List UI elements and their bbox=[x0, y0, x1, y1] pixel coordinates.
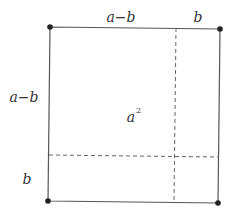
label-center-a: a bbox=[127, 109, 135, 125]
corner-dot-top-right bbox=[217, 26, 223, 32]
corner-dot-bottom-right bbox=[215, 200, 221, 206]
vertical-dashed-divider bbox=[174, 28, 176, 202]
label-left-a-minus-b: a−b bbox=[9, 89, 38, 105]
square-diagram: a−b b a−b b a 2 bbox=[0, 0, 235, 215]
label-center-exponent: 2 bbox=[136, 106, 141, 115]
corner-dot-bottom-left bbox=[45, 198, 51, 204]
corner-dot-top-left bbox=[47, 24, 53, 30]
label-left-b: b bbox=[23, 171, 32, 187]
label-top-b: b bbox=[194, 9, 203, 25]
label-top-a-minus-b: a−b bbox=[106, 9, 135, 25]
horizontal-dashed-divider bbox=[49, 155, 219, 157]
